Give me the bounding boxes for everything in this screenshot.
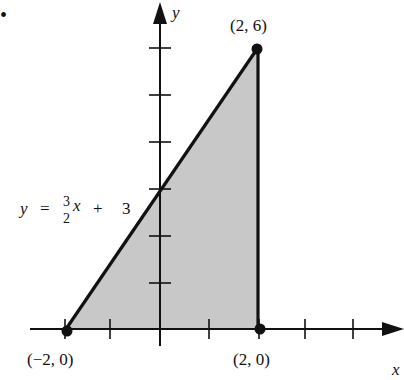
- equation-constant: 3: [122, 199, 131, 218]
- equation-denominator: 2: [63, 211, 70, 226]
- x-axis-arrow-icon: [382, 322, 404, 336]
- y-axis-label: y: [170, 3, 180, 22]
- vertex-point-2-6: [252, 44, 263, 55]
- x-axis: x: [30, 319, 404, 379]
- line-equation-label: y = 3 2 x + 3: [18, 194, 131, 226]
- equation-plus: +: [93, 199, 103, 218]
- point-label-neg2-0: (−2, 0): [27, 350, 73, 369]
- graph-figure: • x y (2,: [0, 0, 404, 380]
- equation-numerator: 3: [63, 194, 70, 209]
- vertex-point-neg2-0: [62, 326, 73, 337]
- vertex-point-2-0: [255, 324, 266, 335]
- y-axis-arrow-icon: [153, 2, 167, 24]
- bullet-marker: •: [0, 4, 7, 26]
- point-label-2-6: (2, 6): [230, 16, 267, 35]
- equation-lhs: y: [18, 199, 28, 218]
- equation-equals: =: [40, 199, 50, 218]
- x-axis-label: x: [391, 360, 400, 379]
- equation-variable: x: [72, 196, 81, 215]
- point-label-2-0: (2, 0): [233, 350, 270, 369]
